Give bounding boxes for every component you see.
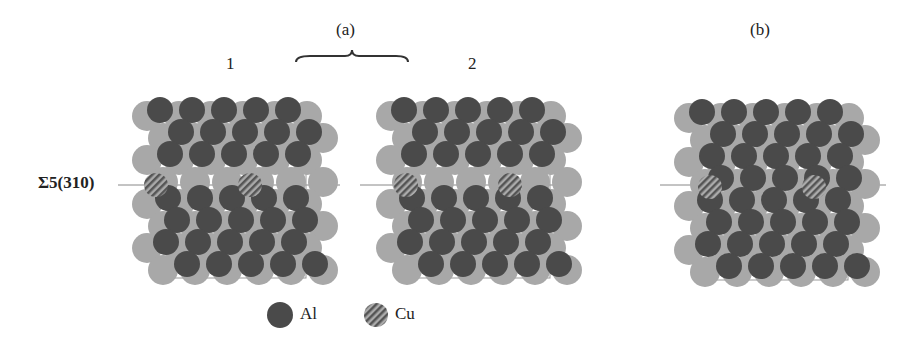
al-legend-icon	[267, 302, 293, 328]
group-brace	[296, 50, 408, 62]
panel-b-label: (b)	[750, 20, 770, 40]
cu-legend-icon	[364, 303, 388, 327]
legend-cu-label: Cu	[395, 304, 415, 324]
boundary-label: Σ5(310)	[38, 173, 94, 193]
group-a-label: (a)	[336, 20, 355, 40]
legend-al-label: Al	[300, 304, 317, 324]
panel-2-label: 2	[468, 54, 477, 74]
diagram-canvas	[0, 0, 904, 337]
panel-1-label: 1	[226, 54, 235, 74]
